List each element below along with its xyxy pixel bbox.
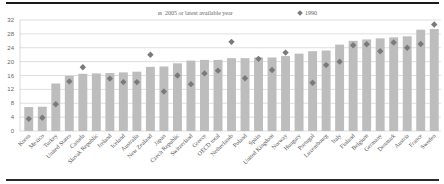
y-tick-label: 8 — [11, 100, 15, 106]
x-tick-label: Mexico — [28, 132, 45, 149]
bottom-rule — [6, 179, 439, 181]
x-tick-label: Sweden — [419, 132, 437, 150]
bar — [241, 58, 250, 131]
x-tick-label: Poland — [232, 132, 248, 148]
y-tick-label: 24 — [7, 45, 14, 51]
y-tick-label: 28 — [7, 31, 14, 37]
diamond-marker — [147, 51, 153, 57]
bar — [186, 61, 195, 131]
diamond-marker — [80, 64, 86, 70]
bar — [430, 29, 439, 131]
bar — [92, 73, 101, 131]
bar — [146, 67, 155, 131]
bar — [227, 58, 236, 131]
x-tick-label: Austria — [393, 132, 410, 149]
bar — [159, 66, 168, 131]
bar — [254, 57, 263, 131]
bar — [335, 45, 344, 131]
y-tick-label: 4 — [11, 114, 15, 120]
y-tick-label: 16 — [7, 73, 14, 79]
diamond-marker — [228, 39, 234, 45]
bar — [389, 37, 398, 131]
bar — [308, 51, 317, 131]
y-tick-label: 12 — [7, 86, 14, 92]
diamond-marker — [431, 21, 437, 27]
diamond-marker — [282, 49, 288, 55]
bar — [295, 54, 304, 131]
bar — [349, 41, 358, 131]
bar — [281, 56, 290, 131]
y-tick-label: 20 — [7, 59, 14, 65]
bar — [78, 74, 87, 131]
y-tick-label: 0 — [11, 128, 15, 134]
bar-chart: 048121620242832KoreaMexicoTurkeyUnited S… — [0, 0, 444, 184]
bar — [362, 39, 371, 131]
y-tick-label: 32 — [7, 17, 14, 23]
